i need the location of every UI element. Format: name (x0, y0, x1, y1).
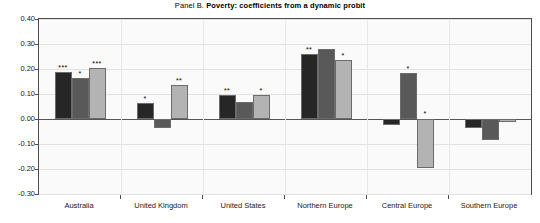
significance-stars: * (413, 110, 438, 117)
y-axis-tick-mark (35, 44, 39, 45)
y-axis-tick-mark (35, 119, 39, 120)
bar (154, 119, 171, 128)
group-separator (285, 19, 286, 194)
y-axis-tick-mark (35, 169, 39, 170)
x-axis-tick-mark (284, 195, 285, 199)
bar (137, 103, 154, 119)
y-axis-tick-label: -0.10 (1, 139, 35, 148)
x-axis-tick-mark (120, 195, 121, 199)
significance-stars: *** (85, 60, 110, 67)
bar (236, 102, 253, 120)
y-axis-tick-mark (35, 19, 39, 20)
bar (72, 78, 89, 119)
x-axis-category-label: United States (220, 201, 265, 210)
y-axis-tick-mark (35, 94, 39, 95)
bar (318, 49, 335, 119)
bar (499, 119, 516, 122)
chart-title: Panel B. Poverty: coefficients from a dy… (0, 1, 540, 10)
x-axis-tick-mark (202, 195, 203, 199)
bar (171, 85, 188, 119)
bar (383, 119, 400, 125)
significance-stars: * (133, 95, 158, 102)
significance-stars: * (249, 87, 274, 94)
y-axis-tick-label: 0.40 (1, 14, 35, 23)
y-axis-tick-label: 0.30 (1, 39, 35, 48)
group-separator (367, 19, 368, 194)
y-axis-tick-label: 0.10 (1, 89, 35, 98)
y-axis-tick-mark (35, 144, 39, 145)
x-axis-tick-mark (366, 195, 367, 199)
bar (301, 54, 318, 119)
y-axis-tick-mark (35, 194, 39, 195)
y-axis-tick-label: 0.20 (1, 64, 35, 73)
bar (417, 119, 434, 168)
group-separator (121, 19, 122, 194)
y-axis-tick-label: 0.00 (1, 114, 35, 123)
x-axis-tick-mark (448, 195, 449, 199)
bar (465, 119, 482, 128)
chart-title-main: Poverty: coefficients from a dynamic pro… (206, 1, 365, 10)
significance-stars: * (396, 65, 421, 72)
y-axis-tick-label: -0.30 (1, 189, 35, 198)
gridline (39, 194, 531, 195)
plot-area: ****************** (38, 18, 532, 195)
significance-stars: ** (215, 87, 240, 94)
y-axis-tick-label: -0.20 (1, 164, 35, 173)
bar (55, 72, 72, 120)
y-axis-tick-mark (35, 69, 39, 70)
x-axis-category-label: Central Europe (382, 201, 432, 210)
x-axis-category-label: United Kingdom (134, 201, 187, 210)
chart-figure: Panel B. Poverty: coefficients from a dy… (0, 0, 540, 223)
bar (89, 68, 106, 119)
x-axis-category-label: Southern Europe (461, 201, 518, 210)
significance-stars: * (331, 52, 356, 59)
bar (482, 119, 499, 140)
bar (219, 95, 236, 119)
x-axis-category-label: Australia (64, 201, 93, 210)
significance-stars: ** (167, 77, 192, 84)
group-separator (449, 19, 450, 194)
bar (253, 95, 270, 119)
group-separator (203, 19, 204, 194)
x-axis-category-label: Northern Europe (297, 201, 352, 210)
bar (335, 60, 352, 119)
chart-title-prefix: Panel B. (175, 1, 204, 10)
